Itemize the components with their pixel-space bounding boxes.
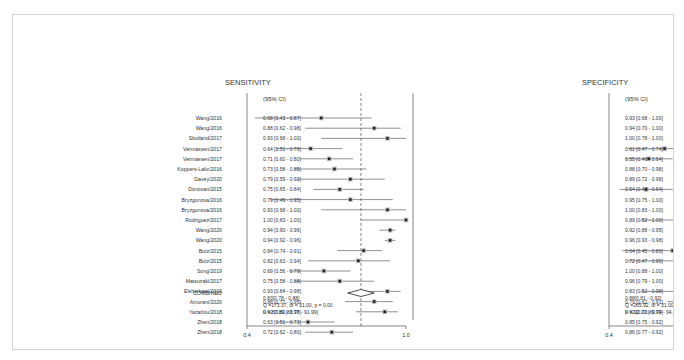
- ci-text: 0.83 [0.52 - 0.98]: [625, 288, 663, 294]
- combined-diamond: [348, 290, 375, 297]
- point-estimate: [373, 127, 376, 130]
- heterogeneity-stat: I² = 92.10 [89.74 - 94.46]: [625, 309, 673, 315]
- ci-text: 0.96 [0.79 - 1.00]: [625, 278, 663, 284]
- combined-ci-text: 0.88[0.81 - 0.92]: [625, 295, 662, 301]
- ci-text: 1.00 [0.78 - 1.00]: [625, 135, 663, 141]
- forest-plot: SENSITIVITY0.41.0(95% CI)Wang/20160.68 […: [13, 15, 673, 349]
- study-label: Zhen/2018: [197, 319, 222, 325]
- ci-text: 0.71 [0.60 - 0.80]: [263, 156, 301, 162]
- ci-header: (95% CI): [625, 96, 648, 102]
- study-label: Davey/2020: [194, 176, 222, 182]
- study-label: Butz/2015: [199, 248, 222, 254]
- panel-title: SPECIFICITY: [582, 78, 628, 87]
- ci-text: 0.94 [0.92 - 0.96]: [263, 237, 301, 243]
- ci-text: 0.84 [0.74 - 0.91]: [263, 248, 301, 254]
- ci-text: 0.93 [0.84 - 0.98]: [263, 288, 301, 294]
- panel-title: SENSITIVITY: [225, 78, 271, 87]
- ci-text: 0.69 [0.56 - 0.79]: [263, 268, 301, 274]
- ci-text: 0.93 [0.68 - 1.00]: [263, 135, 301, 141]
- ci-text: 0.96 [0.93 - 0.98]: [625, 237, 663, 243]
- ci-text: 0.79 [0.59 - 0.92]: [263, 176, 301, 182]
- point-estimate: [328, 158, 331, 161]
- point-estimate: [663, 147, 666, 150]
- study-label: Bryzgunova/2016: [182, 197, 222, 203]
- point-estimate: [309, 147, 312, 150]
- point-estimate: [386, 290, 389, 293]
- ci-text: 0.89 [0.72 - 0.98]: [625, 176, 663, 182]
- study-label: Amurani/2020: [190, 299, 222, 305]
- point-estimate: [373, 300, 376, 303]
- study-label: Wang/2020: [196, 227, 222, 233]
- point-estimate: [405, 219, 408, 222]
- point-estimate: [349, 178, 352, 181]
- ci-text: 0.92 [0.88 - 0.95]: [625, 227, 663, 233]
- ci-text: 0.55 [0.46 - 0.64]: [625, 156, 663, 162]
- ci-text: 0.95 [0.75 - 1.00]: [625, 197, 663, 203]
- ci-text: 0.72 [0.62 - 0.80]: [263, 329, 301, 335]
- ci-text: 1.00 [0.83 - 1.00]: [263, 217, 301, 223]
- x-tick-label: 0.4: [605, 332, 613, 338]
- ci-text: 0.73 [0.58 - 0.85]: [263, 166, 301, 172]
- point-estimate: [362, 249, 365, 252]
- point-estimate: [389, 239, 392, 242]
- point-estimate: [384, 311, 387, 314]
- ci-text: 0.88 [0.70 - 0.98]: [625, 166, 663, 172]
- point-estimate: [357, 260, 360, 263]
- heterogeneity-stat: Q =265.92, df = 21.00, p = 0.00: [625, 302, 673, 308]
- ci-text: 0.86 [0.77 - 0.92]: [625, 329, 663, 335]
- ci-text: 1.00 [0.83 - 1.00]: [625, 207, 663, 213]
- x-tick-label: 1.0: [402, 332, 410, 338]
- study-label: Song/2019: [197, 268, 222, 274]
- ci-text: 0.72 [0.47 - 0.90]: [625, 258, 663, 264]
- study-label: Yazarlou/2018: [189, 309, 222, 315]
- heterogeneity-stat: Q =173.37, df = 21.00, p = 0.00: [263, 302, 333, 308]
- point-estimate: [338, 280, 341, 283]
- study-label: Wang/2020: [196, 237, 222, 243]
- study-label: Koppers-Lalic/2016: [177, 166, 222, 172]
- ci-text: 0.93 [0.68 - 1.00]: [263, 207, 301, 213]
- study-label: Wang/2016: [196, 125, 222, 131]
- ci-text: 0.54 [0.44 - 0.64]: [625, 186, 663, 192]
- ci-text: 0.85 [0.75 - 0.92]: [625, 319, 663, 325]
- combined-ci-text: 0.83[0.78 - 0.88]: [263, 295, 300, 301]
- ci-text: 0.94 [0.70 - 1.00]: [625, 125, 663, 131]
- ci-text: 0.82 [0.63 - 0.94]: [263, 258, 301, 264]
- study-label: Butz/2015: [199, 258, 222, 264]
- ci-text: 0.79 [0.49 - 0.95]: [263, 197, 301, 203]
- ci-header: (95% CI): [263, 96, 286, 102]
- point-estimate: [333, 168, 336, 171]
- ci-text: 0.75 [0.58 - 0.88]: [263, 278, 301, 284]
- ci-text: 1.00 [0.88 - 1.00]: [625, 268, 663, 274]
- ci-text: 0.68 [0.43 - 0.87]: [263, 115, 301, 121]
- x-tick-label: 0.4: [243, 332, 251, 338]
- study-label: Vermassen/2017: [183, 146, 222, 152]
- point-estimate: [338, 188, 341, 191]
- study-label: Rodriguez/2017: [185, 217, 222, 223]
- study-label: Matsuzaki/2017: [186, 278, 222, 284]
- study-label: Wang/2016: [196, 115, 222, 121]
- figure-frame: SENSITIVITY0.41.0(95% CI)Wang/20160.68 […: [12, 14, 674, 350]
- ci-text: 0.64 [0.51 - 0.76]: [263, 146, 301, 152]
- ci-text: 0.94 [0.90 - 0.96]: [263, 227, 301, 233]
- study-label: Zhen/2018: [197, 329, 222, 335]
- ci-text: 0.64 [0.45 - 0.80]: [625, 248, 663, 254]
- ci-text: 0.75 [0.65 - 0.84]: [263, 186, 301, 192]
- study-label: Bryzgunova/2016: [182, 207, 222, 213]
- point-estimate: [323, 270, 326, 273]
- point-estimate: [307, 321, 310, 324]
- study-label: Vermassen/2017: [183, 156, 222, 162]
- point-estimate: [320, 117, 323, 120]
- point-estimate: [671, 249, 673, 252]
- ci-text: 0.93 [0.68 - 1.00]: [625, 115, 663, 121]
- ci-text: 0.88 [0.62 - 0.98]: [263, 125, 301, 131]
- point-estimate: [331, 331, 334, 334]
- ci-text: 0.89 [0.52 - 1.00]: [625, 217, 663, 223]
- point-estimate: [386, 137, 389, 140]
- ci-text: 0.61 [0.47 - 0.74]: [625, 146, 663, 152]
- ci-text: 0.63 [0.51 - 0.73]: [263, 319, 301, 325]
- point-estimate: [349, 198, 352, 201]
- combined-label: COMBINED: [193, 290, 222, 296]
- point-estimate: [389, 229, 392, 232]
- study-label: Skotland/2017: [189, 135, 222, 141]
- point-estimate: [386, 209, 389, 212]
